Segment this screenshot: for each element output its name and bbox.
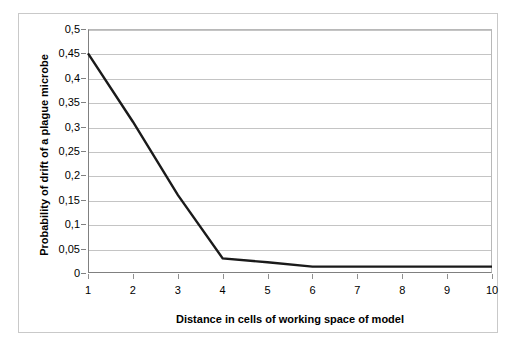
x-tick-label: 8 <box>399 284 405 296</box>
y-tick-label: 0,45 <box>59 47 80 59</box>
x-tick-label: 2 <box>130 284 136 296</box>
x-tick-mark <box>133 274 134 279</box>
x-tick-mark <box>402 274 403 279</box>
x-tick-label: 7 <box>354 284 360 296</box>
y-tick-mark <box>81 127 86 128</box>
x-axis-title: Distance in cells of working space of mo… <box>88 313 492 325</box>
x-tick-label: 10 <box>486 284 498 296</box>
y-tick-label: 0,15 <box>59 194 80 206</box>
y-tick-mark <box>81 151 86 152</box>
x-tick-label: 5 <box>264 284 270 296</box>
x-tick-mark <box>492 274 493 279</box>
x-tick-mark <box>312 274 313 279</box>
y-tick-mark <box>81 273 86 274</box>
x-tick-label: 4 <box>220 284 226 296</box>
y-tick-mark <box>81 102 86 103</box>
x-tick-mark <box>223 274 224 279</box>
x-tick-mark <box>178 274 179 279</box>
y-axis-tick-labels: 00,050,10,150,20,250,30,350,40,450,5 <box>0 29 86 273</box>
data-series-line <box>88 29 492 273</box>
y-tick-mark <box>81 78 86 79</box>
chart-figure: Probability of drift of a plague microbe… <box>0 0 514 346</box>
series-polyline <box>88 53 492 266</box>
x-tick-label: 1 <box>85 284 91 296</box>
y-tick-mark <box>81 53 86 54</box>
y-tick-label: 0,3 <box>65 121 80 133</box>
y-tick-label: 0,1 <box>65 218 80 230</box>
y-tick-label: 0,05 <box>59 243 80 255</box>
y-tick-label: 0,5 <box>65 23 80 35</box>
y-tick-label: 0,2 <box>65 169 80 181</box>
x-tick-label: 6 <box>309 284 315 296</box>
x-tick-label: 3 <box>175 284 181 296</box>
x-axis-tick-labels: 12345678910 <box>88 274 492 300</box>
x-tick-mark <box>447 274 448 279</box>
y-tick-mark <box>81 175 86 176</box>
y-tick-label: 0,25 <box>59 145 80 157</box>
x-tick-mark <box>88 274 89 279</box>
x-tick-mark <box>357 274 358 279</box>
y-tick-mark <box>81 249 86 250</box>
y-tick-mark <box>81 29 86 30</box>
y-tick-label: 0,4 <box>65 72 80 84</box>
y-tick-mark <box>81 200 86 201</box>
x-tick-mark <box>268 274 269 279</box>
y-tick-label: 0,35 <box>59 96 80 108</box>
y-tick-mark <box>81 224 86 225</box>
x-tick-label: 9 <box>444 284 450 296</box>
y-tick-label: 0 <box>74 267 80 279</box>
